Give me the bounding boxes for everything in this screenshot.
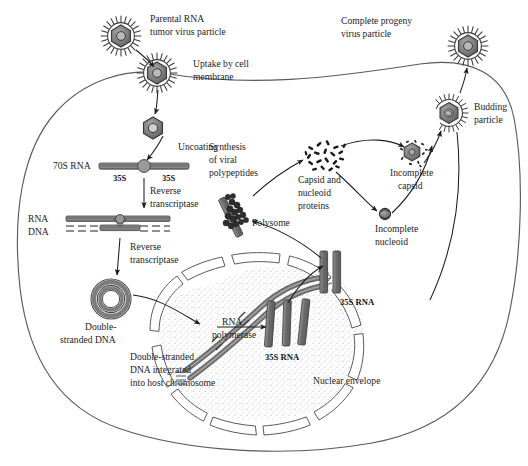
label-reverse-transcriptase-1-line1: Reverse: [150, 185, 181, 196]
arrow-capsid-to-budding: [424, 131, 441, 163]
label-integrated-line3: into host chromosome: [130, 377, 215, 388]
incomplete-capsid: [400, 140, 428, 168]
label-integrated-line1: Double-stranded: [130, 351, 194, 362]
incomplete-nucleoid: [379, 208, 390, 219]
budding-particle: [436, 94, 468, 132]
nucleus: [150, 253, 364, 435]
label-uptake-line2: membrane: [193, 71, 234, 82]
rna-dna-hybrid: [66, 215, 170, 231]
arrow-uncoating-to-70s: [147, 136, 163, 160]
label-polysome: Polysome: [252, 217, 290, 228]
label-35s-rna-nucleus: 35S RNA: [265, 352, 300, 362]
label-incomplete-nucleoid-line1: Incomplete: [375, 223, 418, 234]
line-budding-tail: [430, 132, 459, 300]
label-35s-left: 35S: [113, 173, 127, 183]
label-reverse-transcriptase-2-line1: Reverse: [130, 241, 161, 252]
arrow-uptake-to-uncoating: [155, 90, 158, 114]
arrow-hybrid-to-dsdna: [117, 238, 120, 275]
label-rna-strand: RNA: [28, 213, 48, 224]
capsid-nucleoid-proteins: [304, 140, 346, 172]
arrow-budding-to-progeny: [460, 68, 467, 93]
label-nuclear-envelope: Nuclear envelope: [313, 375, 380, 386]
label-35s-rna-cytoplasm: 35S RNA: [340, 297, 375, 307]
double-stranded-dna-circle: [91, 279, 131, 319]
polysome: [218, 194, 248, 238]
label-budding-line1: Budding: [474, 101, 507, 112]
label-35s-right: 35S: [162, 173, 176, 183]
rna-70s-molecule: [99, 160, 189, 173]
label-70s-rna: 70S RNA: [53, 160, 91, 171]
label-incomplete-capsid-line2: capsid: [398, 180, 423, 191]
label-synthesis-line1: Synthesis: [209, 141, 246, 152]
uptake-virus-particle: [137, 53, 177, 93]
label-progeny-line2: virus particle: [341, 28, 391, 39]
label-ds-dna-line2: stranded DNA: [60, 334, 116, 345]
label-progeny-line1: Complete progeny: [341, 15, 412, 26]
label-incomplete-nucleoid-line2: nucleoid: [375, 236, 408, 247]
uncoated-core: [144, 117, 163, 139]
label-rna-polymerase-line1: RNA: [222, 316, 242, 327]
label-rna-polymerase-line2: polymerase: [212, 329, 256, 340]
label-capsid-proteins-line2: nucleoid: [298, 187, 331, 198]
label-budding-line2: particle: [474, 114, 503, 125]
label-integrated-line2: DNA integrated: [130, 364, 191, 375]
label-synthesis-line3: polypeptides: [209, 167, 258, 178]
arrow-proteins-to-capsid: [341, 140, 404, 147]
label-reverse-transcriptase-2-line2: transcriptase: [130, 254, 178, 265]
label-ds-dna-line1: Double-: [85, 321, 116, 332]
virus-replication-diagram: Parental RNA tumor virus particle Uptake…: [0, 0, 528, 466]
label-dna-strand: DNA: [28, 226, 49, 237]
arrow-proteins-to-nucleoid: [336, 172, 377, 211]
rna-35s-nucleus-bars: [264, 299, 310, 347]
arrow-polysome-to-proteins: [253, 160, 303, 196]
label-parental-virus-line1: Parental RNA: [150, 13, 204, 24]
label-synthesis-line2: of viral: [209, 154, 237, 165]
label-capsid-proteins-line1: Capsid and: [298, 174, 341, 185]
label-incomplete-capsid-line1: Incomplete: [390, 167, 433, 178]
arrow-parental-to-uptake: [136, 50, 154, 67]
label-parental-virus-line2: tumor virus particle: [150, 26, 226, 37]
progeny-virus-particle: [448, 26, 488, 66]
label-capsid-proteins-line3: proteins: [298, 200, 329, 211]
label-uptake-line1: Uptake by cell: [193, 58, 249, 69]
diagram-canvas: Parental RNA tumor virus particle Uptake…: [0, 0, 528, 466]
label-reverse-transcriptase-1-line2: transcriptase: [150, 198, 198, 209]
parental-virus-particle: [101, 16, 141, 56]
